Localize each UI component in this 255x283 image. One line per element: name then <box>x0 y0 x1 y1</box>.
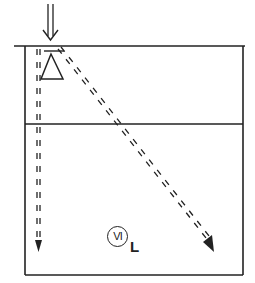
wave-mode-label: VI L <box>107 226 147 256</box>
circled-roman-numeral: VI <box>107 226 128 247</box>
oblique-ray-arrowhead-icon <box>203 235 214 252</box>
vertical-ray-arrowhead-icon <box>35 240 42 252</box>
label-subscript: L <box>130 238 139 255</box>
prism-triangle-icon <box>41 54 63 79</box>
incident-double-arrow-icon <box>43 4 58 40</box>
oblique-ray <box>58 47 214 252</box>
